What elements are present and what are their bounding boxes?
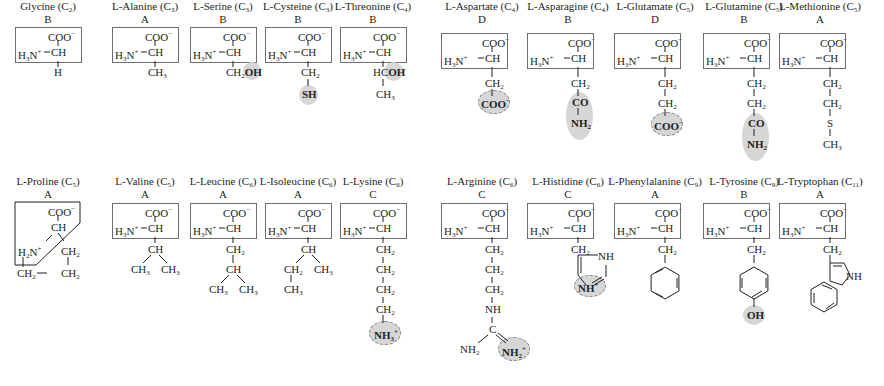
text: CH xyxy=(284,283,299,295)
text: H xyxy=(617,225,625,237)
formula-text: CH2 xyxy=(376,303,395,319)
carboxylate-label: COO− xyxy=(373,204,400,219)
text: H xyxy=(782,55,790,67)
text: 2 xyxy=(673,103,677,111)
text: + xyxy=(463,224,467,232)
text: 3 xyxy=(299,289,303,297)
text: + xyxy=(463,54,467,62)
formula-text: CH2 xyxy=(658,97,677,113)
text: A xyxy=(44,188,52,200)
text: CH xyxy=(301,222,316,234)
text: L-Proline (C xyxy=(16,175,72,187)
text: + xyxy=(549,224,553,232)
text: 3 xyxy=(391,335,395,343)
alpha-carbon-label: CH xyxy=(376,46,391,58)
text: CH xyxy=(658,243,673,255)
class-label: B xyxy=(0,13,103,25)
text: CH xyxy=(823,138,838,150)
formula-text: CH2 xyxy=(571,77,590,93)
text: 2 xyxy=(391,309,395,317)
text: L-Tryptophan (C xyxy=(777,175,852,187)
text: + xyxy=(212,224,216,232)
text: SH xyxy=(302,88,317,100)
text: 2 xyxy=(391,249,395,257)
text: COO xyxy=(744,37,767,49)
text: CH xyxy=(658,97,673,109)
amino-acid-proline: L-Proline (C5)ACOO−CHH2N+CH2CH2CH2 xyxy=(0,175,103,375)
text: 2 xyxy=(838,249,842,257)
text: CH xyxy=(747,77,762,89)
text: ) xyxy=(76,175,80,187)
amino-group-label: H3N+ xyxy=(706,52,729,71)
text: A xyxy=(651,188,659,200)
amino-acid-glycine: Glycine (C2)BCOO−H3N+CHH xyxy=(0,0,103,200)
text: + xyxy=(725,54,729,62)
formula-text: CH2 xyxy=(284,263,303,279)
alpha-carbon-label: CH xyxy=(485,222,500,234)
text: CH xyxy=(747,222,762,234)
text: + xyxy=(549,54,553,62)
text: L-Glutamate (C xyxy=(616,0,686,12)
text: − xyxy=(396,206,400,214)
text: L-Valine (C xyxy=(115,175,167,187)
amino-acid-name: L-Tryptophan (C11) xyxy=(765,175,875,189)
thiol-label: SH xyxy=(302,88,317,100)
text: CH xyxy=(658,52,673,64)
text: CH xyxy=(571,222,586,234)
text: CH xyxy=(148,243,163,255)
amino-group-label: H3N+ xyxy=(530,52,553,71)
text: CH xyxy=(658,222,673,234)
formula-text: CH2 xyxy=(61,267,80,283)
formula-text: CH2 xyxy=(485,263,504,279)
text: H xyxy=(268,49,276,61)
amino-group-label: H3N+ xyxy=(617,52,640,71)
text: A xyxy=(141,188,149,200)
carbonyl-label: CO xyxy=(572,96,589,108)
text: 2 xyxy=(299,269,303,277)
amino-acid-name: L-Methionine (C5) xyxy=(765,0,875,14)
alpha-carbon-label: CH xyxy=(658,222,673,234)
text: NH xyxy=(485,303,501,315)
text: COO xyxy=(48,206,71,218)
text: ) xyxy=(72,0,76,12)
text: CH xyxy=(376,283,391,295)
class-label: C xyxy=(318,188,428,200)
text: H xyxy=(115,49,123,61)
text: + xyxy=(287,48,291,56)
text: CH xyxy=(823,52,838,64)
methyl-label: CH3 xyxy=(209,283,228,299)
text: COO xyxy=(820,207,843,219)
text: 2 xyxy=(476,349,480,357)
text: 3 xyxy=(838,144,842,152)
text: − xyxy=(505,36,509,44)
text: COO xyxy=(48,31,71,43)
amino-group-label: H3N+ xyxy=(18,46,41,65)
text: CH xyxy=(61,245,76,257)
text: L-Alanine (C xyxy=(112,0,171,12)
text: + xyxy=(362,48,366,56)
text: C xyxy=(489,323,496,335)
formula-text: CH2 xyxy=(747,97,766,113)
text: CH xyxy=(226,222,241,234)
amino-acid-threonine: L-Threonine (C4)BCOO−H3N+CHHCOHCH3 xyxy=(318,0,428,200)
text: NH xyxy=(460,343,476,355)
text: CH xyxy=(301,66,316,78)
text: S xyxy=(827,117,833,129)
side-chain-group: CH xyxy=(226,263,241,275)
amide-label: NH2 xyxy=(571,117,591,133)
text: + xyxy=(636,54,640,62)
text: A xyxy=(141,13,149,25)
alpha-carbon-label: CH xyxy=(747,222,762,234)
formula-text: CH2 xyxy=(61,245,80,261)
text: B xyxy=(44,13,51,25)
text: CH xyxy=(51,46,66,58)
amino-group-label: H3N+ xyxy=(115,46,138,65)
alpha-carbon-label: CH xyxy=(51,46,66,58)
text: L-Leucine (C xyxy=(190,175,250,187)
text: CH xyxy=(571,52,586,64)
hydrogen-label: H xyxy=(54,66,62,78)
alpha-carbon-label: CH xyxy=(148,46,163,58)
text: COO xyxy=(373,207,396,219)
text: CH xyxy=(226,66,241,78)
text: + xyxy=(725,224,729,232)
